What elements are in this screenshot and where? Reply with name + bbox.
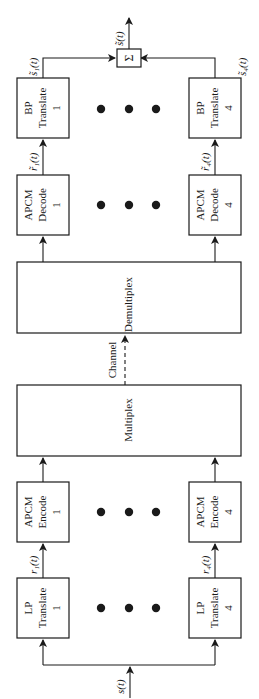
apcm-encode-1-line3: 1 [50, 509, 62, 515]
lp-translate-4-block: LP Translate 4 [189, 578, 241, 638]
input-wiring: s(t) [43, 640, 215, 698]
apcm-decode-1-line2: Decode [36, 188, 48, 222]
ellipsis-lp-row [97, 604, 160, 612]
apcm-decode-4-line2: Decode [208, 188, 220, 222]
bp-translate-1-line2: Translate [36, 88, 48, 129]
lp-translate-4-line2: Translate [208, 588, 220, 629]
bp-translate-1-block: BP Translate 1 [17, 78, 69, 138]
r1-tilde-label: r̃₁(t) [27, 152, 40, 171]
r1-label: r₁(t) [27, 555, 40, 574]
lp-translate-1-line1: LP [22, 602, 34, 615]
apcm-encode-4-line1: APCM [194, 496, 206, 527]
s4-tilde-to-sum-arrow [141, 58, 215, 78]
apcm-encode-4-line2: Encode [208, 495, 220, 528]
bp-translate-4-line1: BP [194, 101, 206, 114]
apcm-decode-1-block: APCM Decode 1 [17, 175, 69, 235]
bp-translate-4-line3: 4 [222, 105, 234, 111]
s1-tilde-to-sum-arrow [43, 58, 115, 78]
bp-translate-4-block: BP Translate 4 [189, 78, 241, 138]
branch-4: LP Translate 4 r₄(t) APCM Encode 4 APCM … [141, 57, 249, 638]
apcm-encode-1-line2: Encode [36, 495, 48, 528]
ellipsis-bp-row [97, 105, 160, 113]
apcm-encode-4-block: APCM Encode 4 [189, 482, 241, 542]
bp-translate-1-line1: BP [22, 101, 34, 114]
apcm-encode-1-line1: APCM [22, 496, 34, 527]
bp-translate-1-line3: 1 [50, 105, 62, 111]
apcm-decode-4-block: APCM Decode 4 [189, 175, 241, 235]
channel-label: Channel [106, 342, 118, 379]
summer-block: Σ [117, 49, 141, 67]
apcm-decode-1-line3: 1 [50, 202, 62, 208]
lp-translate-1-line3: 1 [50, 605, 62, 611]
r4-tilde-label: r̃₄(t) [199, 152, 212, 171]
sigma-icon: Σ [122, 54, 136, 61]
apcm-decode-1-line1: APCM [22, 189, 34, 220]
apcm-decode-4-line3: 4 [222, 202, 234, 208]
input-signal-label: s(t) [114, 679, 127, 694]
lp-translate-4-line1: LP [194, 602, 206, 615]
demultiplex-label: Demultiplex [122, 277, 134, 332]
apcm-encode-4-line3: 4 [222, 509, 234, 515]
lp-translate-4-line3: 4 [222, 605, 234, 611]
apcm-subband-block-diagram: s(t) LP Translate 1 r₁(t) APCM Encode 1 … [0, 0, 259, 699]
ellipsis-decode-row [97, 201, 160, 209]
multiplex-block: Multiplex [17, 385, 241, 456]
apcm-decode-4-line1: APCM [194, 189, 206, 220]
lp-translate-1-block: LP Translate 1 [17, 578, 69, 638]
multiplex-label: Multiplex [122, 398, 134, 442]
r4-label: r₄(t) [199, 555, 212, 574]
branch-1: LP Translate 1 r₁(t) APCM Encode 1 APCM … [17, 57, 115, 638]
lp-translate-1-line2: Translate [36, 588, 48, 629]
bp-translate-4-line2: Translate [208, 88, 220, 129]
output-signal-label: s̃(t) [113, 31, 126, 46]
demultiplex-block: Demultiplex [17, 262, 241, 333]
apcm-encode-1-block: APCM Encode 1 [17, 482, 69, 542]
s1-tilde-label: s̃₁(t) [27, 57, 40, 76]
s4-tilde-label: s̃₄(t) [236, 57, 249, 76]
ellipsis-encode-row [97, 508, 160, 516]
